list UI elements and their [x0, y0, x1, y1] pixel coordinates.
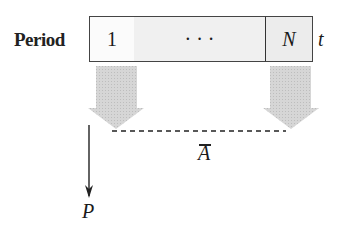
diagram-canvas: Period 1 · · · N t A P: [0, 0, 341, 230]
cash-flow-arrow-right-icon: [263, 66, 319, 129]
present-value-label: P: [82, 200, 94, 223]
overbar: [199, 144, 211, 146]
uniform-series-label: A: [198, 142, 210, 165]
cash-flow-arrow-left-icon: [88, 66, 144, 129]
diagram-graphics: [0, 0, 341, 230]
